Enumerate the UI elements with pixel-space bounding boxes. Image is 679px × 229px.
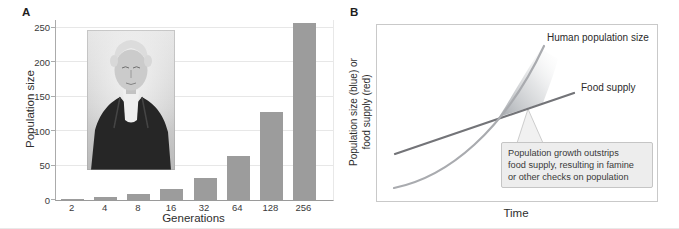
y-tick-label: 100 — [23, 126, 50, 137]
y-tick-label: 200 — [23, 57, 50, 68]
panel-b-plot: Human population size Food supply Popula… — [376, 24, 658, 202]
bar-16 — [160, 189, 183, 200]
panel-b-y-axis-title: Population size (blue) or food supply (r… — [347, 58, 373, 166]
annotation-line1: Population growth outstrips — [508, 147, 646, 159]
panel-b-label: B — [350, 6, 358, 18]
panel-a-label: A — [22, 6, 30, 18]
y-tick-label: 50 — [23, 160, 50, 171]
panel-a-x-axis-title: Generations — [55, 212, 332, 224]
portrait-illustration — [87, 30, 175, 170]
bar-64 — [227, 156, 250, 200]
bar-256 — [293, 23, 316, 200]
human-population-size-label: Human population size — [547, 32, 649, 43]
bar-8 — [127, 194, 150, 200]
callout-pointer — [517, 109, 543, 143]
malthus-figure: A Population size 050100150200250 248163… — [0, 0, 679, 229]
panel-b-y-axis-title-line2: food supply (red) — [360, 58, 373, 166]
panel-b-x-axis-title: Time — [376, 207, 656, 219]
bar-32 — [194, 178, 217, 200]
panel-b-y-axis-title-line1: Population size (blue) or — [347, 58, 360, 166]
panel-b: B Population size (blue) or food supply … — [340, 0, 679, 229]
food-supply-label: Food supply — [581, 82, 635, 93]
bar-128 — [260, 112, 283, 200]
bottom-page-rule — [0, 228, 679, 229]
y-tick-label: 150 — [23, 91, 50, 102]
bar-4 — [94, 197, 117, 200]
bar-2 — [61, 199, 84, 200]
panel-a: A Population size 050100150200250 248163… — [0, 0, 340, 229]
famine-annotation-callout: Population growth outstrips food supply,… — [501, 142, 653, 188]
y-tick-label: 250 — [23, 22, 50, 33]
annotation-line3: or other checks on population — [508, 171, 646, 183]
y-tick-label: 0 — [23, 195, 50, 206]
malthus-portrait-image — [87, 30, 175, 170]
annotation-line2: food supply, resulting in famine — [508, 159, 646, 171]
